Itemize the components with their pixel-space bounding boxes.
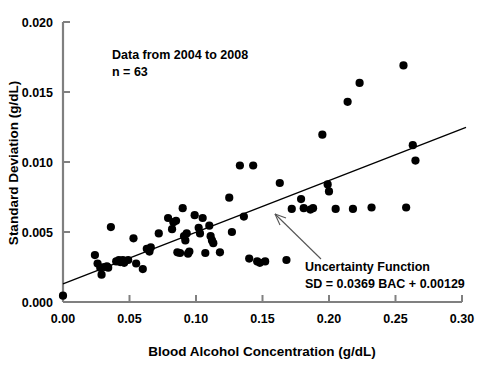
y-tick-label: 0.015 — [22, 86, 53, 100]
data-point — [147, 243, 155, 251]
x-axis-title: Blood Alcohol Concentration (g/dL) — [148, 344, 375, 359]
data-point — [282, 256, 290, 264]
x-tick-label: 0.00 — [51, 312, 75, 326]
data-point — [409, 141, 417, 149]
y-tick-label: 0.005 — [22, 226, 53, 240]
chart-canvas: 0.000.050.100.150.200.250.30 0.0000.0050… — [0, 0, 500, 372]
data-point — [132, 259, 140, 267]
data-point — [59, 292, 67, 300]
data-point — [309, 204, 317, 212]
data-point — [332, 205, 340, 213]
data-point — [181, 236, 189, 244]
x-tick-label: 0.05 — [117, 312, 141, 326]
data-point — [209, 239, 217, 247]
data-point — [191, 211, 199, 219]
annotation-sample-size: n = 63 — [112, 65, 148, 79]
data-point — [324, 180, 332, 188]
x-tick-label: 0.25 — [383, 312, 407, 326]
data-point — [172, 217, 180, 225]
data-point — [205, 222, 213, 230]
data-point — [344, 98, 352, 106]
data-point — [107, 223, 115, 231]
y-tick-label: 0.020 — [22, 16, 53, 30]
data-point — [261, 257, 269, 265]
data-point — [185, 248, 193, 256]
data-point — [399, 61, 407, 69]
data-point — [297, 195, 305, 203]
data-point — [179, 204, 187, 212]
data-point — [201, 249, 209, 257]
data-point — [349, 205, 357, 213]
data-point — [104, 264, 112, 272]
x-tick-label: 0.20 — [317, 312, 341, 326]
x-tick-label: 0.15 — [250, 312, 274, 326]
data-point — [411, 157, 419, 165]
data-point — [196, 229, 204, 237]
data-point — [288, 205, 296, 213]
fit-line-label: Uncertainty Function — [305, 260, 430, 274]
data-point — [249, 161, 257, 169]
data-point — [228, 228, 236, 236]
data-point — [225, 194, 233, 202]
data-point — [236, 161, 244, 169]
data-point — [91, 251, 99, 259]
scatter-plot-figure: 0.000.050.100.150.200.250.30 0.0000.0050… — [0, 0, 500, 372]
data-point — [325, 187, 333, 195]
data-point — [276, 179, 284, 187]
data-point — [139, 265, 147, 273]
data-point — [199, 214, 207, 222]
data-point — [155, 229, 163, 237]
data-point — [124, 256, 132, 264]
data-point — [318, 131, 326, 139]
data-point — [367, 203, 375, 211]
data-point — [402, 203, 410, 211]
data-point — [176, 249, 184, 257]
data-point — [183, 229, 191, 237]
data-point — [168, 225, 176, 233]
data-point — [240, 213, 248, 221]
data-point — [245, 255, 253, 263]
x-tick-label: 0.10 — [184, 312, 208, 326]
y-tick-label: 0.010 — [22, 156, 53, 170]
y-tick-label: 0.000 — [22, 296, 53, 310]
x-tick-label: 0.30 — [450, 312, 474, 326]
y-axis-title: Standard Deviation (g/dL) — [6, 81, 21, 245]
fit-line-equation: SD = 0.0369 BAC + 0.00129 — [305, 277, 465, 291]
data-point — [97, 271, 105, 279]
data-point — [355, 79, 363, 87]
annotation-data-years: Data from 2004 to 2008 — [112, 48, 248, 62]
data-point — [216, 248, 224, 256]
data-point — [129, 234, 137, 242]
